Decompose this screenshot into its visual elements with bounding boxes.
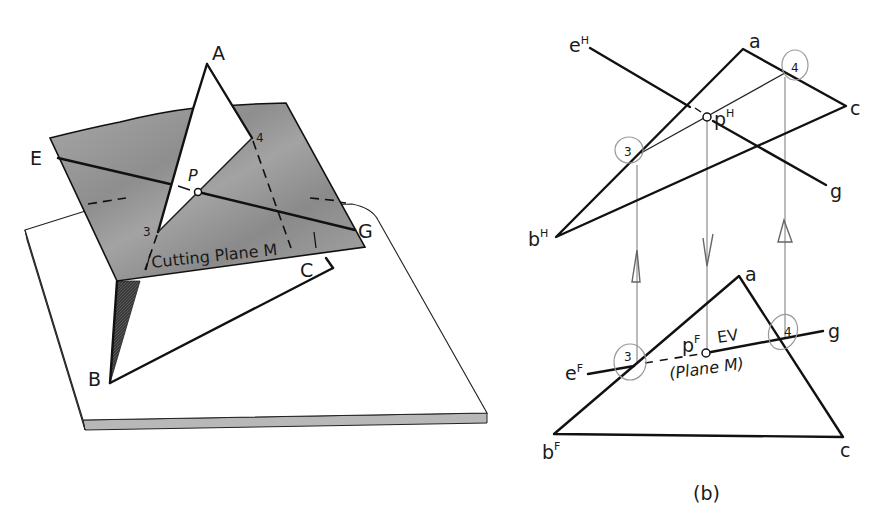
piercing-point-p [195, 189, 202, 196]
label-b: B [88, 368, 101, 390]
label-4: 4 [256, 131, 264, 145]
label-e: E [30, 147, 42, 169]
front-label-e: eF [565, 362, 583, 384]
orthographic-views: eH a c g bH pH 3 4 a c g eF bF pF EV (Pl… [528, 30, 860, 504]
top-label-p: pH [714, 107, 734, 130]
top-label-4: 4 [791, 61, 799, 75]
front-point-p [702, 349, 710, 357]
front-label-c: c [840, 439, 850, 461]
top-line-eg-b [713, 121, 826, 185]
front-label-a: a [745, 263, 757, 285]
label-p: P [188, 166, 198, 185]
top-label-g: g [830, 180, 842, 202]
front-triangle-abc [554, 276, 843, 437]
annotation-circle-4 [764, 310, 803, 353]
label-g: G [358, 220, 373, 242]
top-label-b: bH [528, 227, 548, 250]
top-label-3: 3 [624, 145, 632, 159]
top-view: eH a c g bH pH 3 4 [528, 30, 860, 250]
label-a: A [212, 42, 225, 64]
label-3: 3 [143, 225, 151, 239]
front-label-ev: EV [716, 325, 740, 347]
top-line-eg-a [590, 48, 690, 107]
top-line-3-4 [641, 73, 785, 153]
front-label-p: pF [682, 333, 700, 356]
front-label-4: 4 [784, 325, 792, 339]
cutting-plane-figure: A B C E G P 3 4 Cutting Plane M [0, 0, 887, 518]
arrow-up-icon [632, 250, 640, 282]
figure-caption: (b) [693, 482, 720, 504]
top-label-e: eH [569, 34, 589, 56]
top-label-a: a [749, 30, 761, 52]
label-c: C [300, 259, 313, 281]
front-label-3: 3 [624, 350, 632, 364]
front-view: a c g eF bF pF EV (Plane M) 3 4 [542, 263, 850, 463]
front-label-b: bF [542, 440, 560, 463]
pictorial-view: A B C E G P 3 4 Cutting Plane M [25, 42, 487, 430]
top-label-c: c [850, 97, 860, 119]
top-point-p [703, 113, 711, 121]
arrow-down-icon [703, 234, 713, 266]
front-label-g: g [828, 320, 840, 342]
